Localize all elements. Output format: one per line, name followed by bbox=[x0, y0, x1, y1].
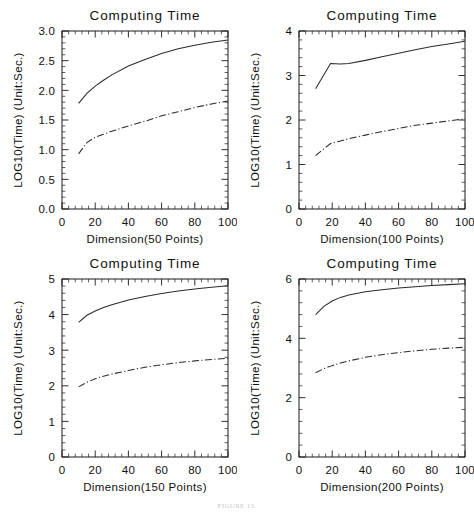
x-tick-label: 20 bbox=[326, 216, 339, 228]
x-axis-label: Dimension(150 Points) bbox=[83, 481, 207, 493]
y-tick-label: 3 bbox=[48, 345, 55, 357]
y-tick-label: 3 bbox=[285, 70, 292, 82]
x-tick-label: 60 bbox=[155, 216, 168, 228]
x-tick-label: 0 bbox=[59, 216, 66, 228]
x-tick-label: 100 bbox=[218, 216, 237, 228]
series-line-dash-dot bbox=[79, 101, 228, 154]
y-tick-label: 0 bbox=[285, 203, 292, 215]
series-line-dash-dot bbox=[316, 119, 465, 156]
x-axis-label: Dimension(200 Points) bbox=[320, 481, 444, 493]
x-tick-label: 80 bbox=[188, 216, 201, 228]
y-tick-label: 3.0 bbox=[38, 25, 55, 37]
x-tick-label: 40 bbox=[122, 216, 135, 228]
x-tick-label: 0 bbox=[59, 464, 66, 476]
y-tick-label: 2.0 bbox=[38, 85, 55, 97]
x-tick-label: 40 bbox=[359, 464, 372, 476]
y-tick-label: 1.0 bbox=[38, 144, 55, 156]
x-tick-label: 80 bbox=[188, 464, 201, 476]
y-axis-label: LOG10(Time) (Unit:Sec.) bbox=[249, 300, 261, 435]
chart-panel-150-points: Computing Time020406080100012345Dimensio… bbox=[0, 248, 237, 494]
chart-svg: Computing Time0204060801000.00.51.01.52.… bbox=[0, 0, 237, 246]
chart-panel-100-points: Computing Time02040608010001234Dimension… bbox=[237, 0, 474, 246]
chart-title: Computing Time bbox=[90, 8, 201, 23]
y-tick-label: 5 bbox=[48, 273, 55, 285]
x-tick-label: 80 bbox=[425, 464, 438, 476]
y-tick-label: 4 bbox=[48, 309, 55, 321]
y-tick-label: 2.5 bbox=[38, 55, 55, 67]
x-axis-label: Dimension(50 Points) bbox=[87, 233, 204, 245]
x-tick-label: 60 bbox=[392, 216, 405, 228]
y-tick-label: 1 bbox=[48, 416, 55, 428]
x-tick-label: 20 bbox=[89, 216, 102, 228]
y-tick-label: 0 bbox=[48, 451, 55, 463]
x-tick-label: 0 bbox=[296, 464, 303, 476]
figure-container: Computing Time0204060801000.00.51.01.52.… bbox=[0, 0, 474, 512]
x-tick-label: 80 bbox=[425, 216, 438, 228]
plot-frame bbox=[62, 279, 228, 457]
y-tick-label: 0.0 bbox=[38, 203, 55, 215]
x-tick-label: 20 bbox=[89, 464, 102, 476]
figure-caption: FIGURE 13. bbox=[218, 502, 257, 510]
y-tick-label: 0.5 bbox=[38, 174, 55, 186]
chart-title: Computing Time bbox=[327, 256, 438, 271]
y-tick-label: 0 bbox=[285, 451, 292, 463]
y-tick-label: 1 bbox=[285, 159, 292, 171]
x-tick-label: 0 bbox=[296, 216, 303, 228]
x-tick-label: 60 bbox=[155, 464, 168, 476]
x-tick-label: 100 bbox=[218, 464, 237, 476]
series-line-dash-dot bbox=[316, 347, 465, 373]
x-tick-label: 60 bbox=[392, 464, 405, 476]
plot-frame bbox=[299, 31, 465, 209]
series-line-solid bbox=[316, 284, 465, 315]
y-tick-label: 4 bbox=[285, 25, 292, 37]
plot-frame bbox=[62, 31, 228, 209]
chart-svg: Computing Time0204060801000246Dimension(… bbox=[237, 248, 474, 494]
y-tick-label: 4 bbox=[285, 333, 292, 345]
y-tick-label: 6 bbox=[285, 273, 292, 285]
chart-svg: Computing Time02040608010001234Dimension… bbox=[237, 0, 474, 246]
x-tick-label: 40 bbox=[122, 464, 135, 476]
y-tick-label: 2 bbox=[285, 392, 292, 404]
x-tick-label: 100 bbox=[455, 464, 474, 476]
chart-panel-50-points: Computing Time0204060801000.00.51.01.52.… bbox=[0, 0, 237, 246]
y-tick-label: 1.5 bbox=[38, 114, 55, 126]
series-line-solid bbox=[316, 41, 465, 89]
y-axis-label: LOG10(Time) (Unit:Sec.) bbox=[12, 52, 24, 187]
series-line-solid bbox=[79, 40, 228, 103]
series-line-dash-dot bbox=[79, 358, 228, 386]
figure-caption-wrap: FIGURE 13. bbox=[0, 494, 474, 512]
x-tick-label: 100 bbox=[455, 216, 474, 228]
x-tick-label: 20 bbox=[326, 464, 339, 476]
chart-panel-200-points: Computing Time0204060801000246Dimension(… bbox=[237, 248, 474, 494]
series-line-solid bbox=[79, 286, 228, 323]
y-axis-label: LOG10(Time) (Unit:Sec.) bbox=[249, 52, 261, 187]
chart-title: Computing Time bbox=[90, 256, 201, 271]
y-axis-label: LOG10(Time) (Unit:Sec.) bbox=[12, 300, 24, 435]
x-tick-label: 40 bbox=[359, 216, 372, 228]
x-axis-label: Dimension(100 Points) bbox=[320, 233, 444, 245]
y-tick-label: 2 bbox=[48, 380, 55, 392]
chart-title: Computing Time bbox=[327, 8, 438, 23]
y-tick-label: 2 bbox=[285, 114, 292, 126]
chart-svg: Computing Time020406080100012345Dimensio… bbox=[0, 248, 237, 494]
